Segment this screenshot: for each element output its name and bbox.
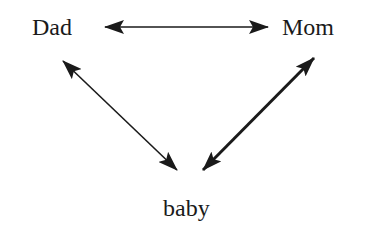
family-triangle-diagram: Dad Mom baby: [0, 0, 373, 236]
arrow-dad-baby: [63, 61, 177, 170]
node-baby-label: baby: [163, 196, 210, 220]
arrow-mom-baby: [203, 58, 314, 170]
node-dad-label: Dad: [32, 15, 72, 39]
node-mom-label: Mom: [282, 15, 334, 39]
